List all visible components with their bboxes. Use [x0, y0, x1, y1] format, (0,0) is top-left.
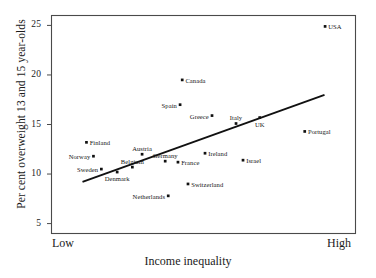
data-point-label: France: [181, 159, 199, 166]
data-point-marker: [92, 155, 95, 158]
data-point-label: Italy: [230, 114, 242, 121]
data-point-marker: [242, 159, 245, 162]
data-point-label: Ireland: [208, 150, 227, 157]
data-point-label: Belgium: [121, 158, 144, 165]
y-tick-label: 5: [16, 218, 42, 228]
data-point-label: Spain: [162, 101, 177, 108]
data-point-label: UK: [255, 121, 265, 128]
data-point-label: Portugal: [308, 128, 331, 135]
data-point-marker: [181, 79, 184, 82]
data-point-label: Denmark: [105, 175, 130, 182]
y-axis-ticks: [47, 25, 52, 223]
y-tick-label: 10: [16, 168, 42, 178]
data-point-marker: [100, 168, 103, 171]
data-point-marker: [258, 116, 261, 119]
y-tick-label: 20: [16, 69, 42, 79]
data-point-marker: [177, 161, 180, 164]
data-point-marker: [211, 114, 214, 117]
data-point-label: Canada: [185, 76, 205, 83]
data-point-marker: [141, 153, 144, 156]
data-point-label: Netherlands: [133, 192, 165, 199]
data-point-label: Finland: [90, 139, 111, 146]
data-point-marker: [179, 103, 182, 106]
y-tick-label: 15: [16, 119, 42, 129]
scatter-chart-figure: Per cent overweight 13 and 15 year-olds …: [0, 0, 376, 278]
data-point-marker: [131, 166, 134, 169]
data-point-marker: [85, 141, 88, 144]
data-point-label: Israel: [246, 157, 261, 164]
data-point-marker: [187, 183, 190, 186]
data-point-marker: [167, 194, 170, 197]
x-axis-max-label: High: [327, 236, 351, 251]
data-point-label: Greece: [190, 112, 209, 119]
data-point-marker: [324, 25, 327, 28]
data-point-label: Austria: [132, 145, 152, 152]
x-axis-title: Income inequality: [0, 254, 376, 269]
data-point-label: Switzerland: [191, 180, 223, 187]
data-point-label: Norway: [69, 153, 91, 160]
data-point-marker: [303, 130, 306, 133]
data-point-marker: [235, 122, 238, 125]
data-point-marker: [164, 160, 167, 163]
y-tick-label: 25: [16, 19, 42, 29]
data-point-label: Germany: [153, 152, 178, 159]
data-point-marker: [204, 152, 207, 155]
x-axis-min-label: Low: [52, 236, 74, 251]
data-point-label: Sweden: [77, 166, 98, 173]
plot-frame: [52, 16, 356, 234]
data-point-marker: [116, 171, 119, 174]
data-point-label: USA: [328, 23, 341, 30]
